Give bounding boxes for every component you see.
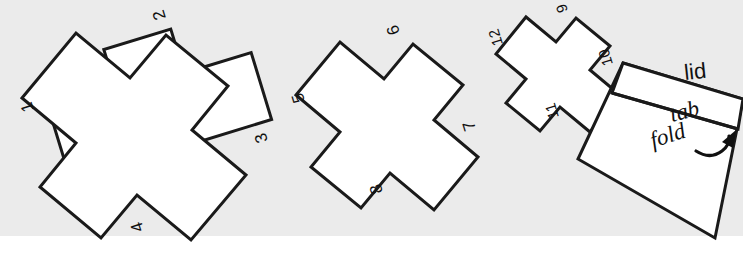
label-12: 12 — [485, 27, 506, 48]
diagram-svg: 1 2 3 4 5 6 7 8 9 10 11 12 — [0, 0, 743, 257]
label-9: 9 — [552, 2, 571, 15]
figure-canvas: 1 2 3 4 5 6 7 8 9 10 11 12 — [0, 0, 743, 257]
cross-medium-path — [296, 42, 478, 210]
label-2: 2 — [149, 8, 170, 23]
label-4: 4 — [127, 220, 148, 235]
label-lid: lid — [683, 58, 708, 85]
cross-shape-medium: 5 6 7 8 — [288, 23, 480, 210]
label-6: 6 — [383, 23, 404, 38]
label-3: 3 — [251, 131, 272, 146]
label-7: 7 — [459, 119, 480, 134]
